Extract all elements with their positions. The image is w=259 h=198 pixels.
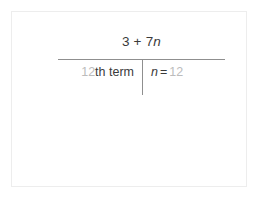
equals-sign: = xyxy=(158,65,169,79)
formula-numerator: 3 + 7n xyxy=(58,34,225,49)
assignment-value: 12 xyxy=(169,65,183,79)
numerator-variable: n xyxy=(153,34,161,49)
denominator-row: 12th term n=12 xyxy=(58,61,225,83)
numerator-coefficient-text: 3 + 7 xyxy=(122,34,153,49)
term-position-cell: 12th term xyxy=(58,61,134,83)
screenshot-canvas: 3 + 7n 12th term n=12 xyxy=(0,0,259,198)
term-ordinal-number: 12 xyxy=(81,65,95,79)
sequence-formula-expression: 3 + 7n 12th term n=12 xyxy=(58,34,225,96)
content-card: 3 + 7n 12th term n=12 xyxy=(11,11,247,187)
assignment-variable: n xyxy=(151,65,158,79)
term-ordinal-label: th term xyxy=(95,65,134,79)
variable-assignment-cell: n=12 xyxy=(151,61,225,83)
